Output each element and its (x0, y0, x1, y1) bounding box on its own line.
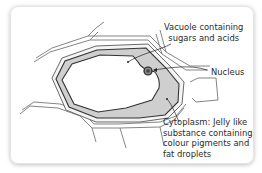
cytoplasm-label-line3: colour pigments and (163, 138, 253, 149)
vacuole-label-line2: sugars and acids (164, 33, 243, 44)
vacuole-label-line1: Vacuole containing (164, 22, 243, 33)
cytoplasm-label-line2: substance containing (163, 128, 253, 139)
cytoplasm-label-line4: fat droplets (163, 149, 253, 160)
nucleus-label: Nucleus (211, 67, 244, 78)
vacuole-label: Vacuole containing sugars and acids (164, 22, 243, 43)
cytoplasm-label-line1: Cytoplasm: Jelly like (163, 117, 253, 128)
cytoplasm-label: Cytoplasm: Jelly like substance containi… (163, 117, 253, 159)
